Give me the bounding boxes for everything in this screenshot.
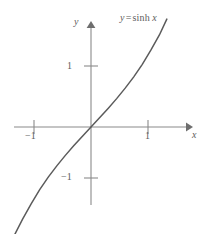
equation-argument: x — [152, 12, 157, 23]
x-tick-label-negative-one: −1 — [25, 131, 36, 141]
equation-lhs: y — [120, 12, 125, 23]
curve-overlay — [0, 0, 205, 234]
sinh-function-graph: y x −1 1 1 −1 y=sinh x — [0, 0, 205, 234]
x-tick-label-one: 1 — [145, 131, 150, 141]
y-tick-label-one: 1 — [67, 61, 72, 71]
equation-label: y=sinh x — [120, 13, 157, 23]
sinh-curve-path — [14, 19, 167, 234]
x-axis-label: x — [192, 130, 196, 140]
equation-function: sinh — [132, 12, 149, 23]
y-axis-label: y — [74, 17, 78, 27]
y-tick-label-negative-one: −1 — [61, 172, 72, 182]
